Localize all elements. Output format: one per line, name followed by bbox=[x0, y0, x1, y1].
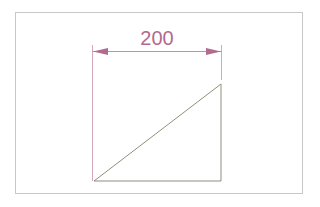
dimension-label: 200 bbox=[127, 28, 187, 48]
triangle-shape bbox=[94, 84, 221, 181]
arrowhead-right-icon bbox=[206, 48, 221, 55]
arrowhead-left-icon bbox=[93, 48, 108, 55]
